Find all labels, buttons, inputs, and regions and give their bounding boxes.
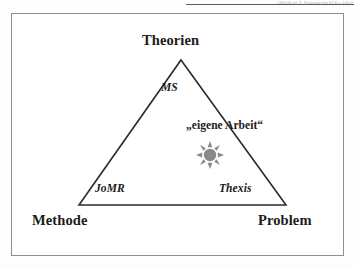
- annotation-label-eigene-arbeit: „eigene Arbeit“: [186, 119, 263, 131]
- edge-label-jomr: JoMR: [95, 182, 125, 194]
- corner-label-theorien: Theorien: [142, 32, 199, 49]
- sun-icon: [196, 141, 224, 169]
- corner-label-methode: Methode: [32, 212, 87, 229]
- edge-label-thexis: Thexis: [219, 182, 252, 194]
- running-head-text: Abbildung 2: Spannungsfeld der Arbeit: [190, 0, 354, 5]
- edge-label-ms: MS: [161, 81, 178, 93]
- corner-label-problem: Problem: [258, 212, 312, 229]
- scanned-page: Abbildung 2: Spannungsfeld der Arbeit Th…: [0, 0, 354, 267]
